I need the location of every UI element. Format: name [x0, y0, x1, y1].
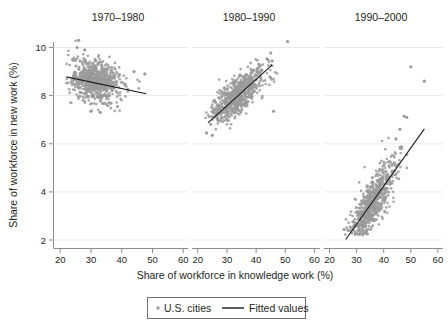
scatter-point [232, 90, 235, 93]
scatter-point [102, 94, 105, 97]
scatter-point [226, 97, 229, 100]
scatter-point [394, 152, 397, 155]
scatter-point [94, 59, 97, 62]
scatter-point [385, 206, 388, 209]
scatter-point [266, 72, 269, 75]
scatter-point [390, 155, 393, 158]
scatter-point [102, 60, 105, 63]
scatter-point [68, 92, 71, 95]
scatter-point [216, 122, 219, 125]
scatter-point [269, 52, 272, 55]
scatter-point [375, 170, 378, 173]
scatter-point [229, 113, 232, 116]
scatter-point [368, 189, 371, 192]
scatter-point [345, 218, 348, 221]
scatter-point [97, 109, 100, 112]
scatter-point-outlier [266, 58, 269, 61]
scatter-point [115, 90, 118, 93]
x-tick-label-40-p3: 40 [378, 254, 389, 265]
scatter-point [399, 152, 402, 155]
scatter-point [115, 71, 118, 74]
scatter-point [240, 74, 243, 77]
scatter-point [223, 116, 226, 119]
scatter-point [242, 83, 245, 86]
scatter-point [99, 100, 102, 103]
scatter-point [369, 200, 372, 203]
scatter-chart-figure: 1970–1980 1980–1990 1990–2000 10 8 6 4 2… [0, 0, 448, 329]
scatter-point [82, 53, 85, 56]
scatter-point [250, 92, 253, 95]
scatter-point [261, 84, 264, 87]
scatter-point [383, 164, 386, 167]
scatter-point [138, 80, 141, 83]
scatter-point [260, 68, 263, 71]
scatter-point [85, 75, 88, 78]
y-tick-label-8: 8 [41, 90, 46, 101]
scatter-point-outlier [77, 39, 80, 42]
scatter-point [120, 81, 123, 84]
scatter-point [224, 101, 227, 104]
scatter-point [93, 72, 96, 75]
scatter-point [362, 220, 365, 223]
scatter-point [95, 103, 98, 106]
scatter-point [254, 58, 257, 61]
scatter-point [107, 105, 110, 108]
scatter-point-outlier [398, 128, 401, 131]
scatter-point [268, 84, 271, 87]
scatter-point [368, 214, 371, 217]
scatter-point [233, 101, 236, 104]
scatter-point [104, 86, 107, 89]
scatter-point [136, 79, 139, 82]
scatter-point [233, 74, 236, 77]
scatter-point [276, 72, 279, 75]
scatter-point [353, 218, 356, 221]
scatter-point [81, 92, 84, 95]
scatter-point [244, 75, 247, 78]
scatter-point [406, 167, 409, 170]
scatter-point [118, 66, 121, 69]
scatter-point [247, 90, 250, 93]
scatter-point-outlier [89, 110, 92, 113]
scatter-point [108, 75, 111, 78]
scatter-point [216, 91, 219, 94]
scatter-point [237, 84, 240, 87]
scatter-point [398, 159, 401, 162]
scatter-point [84, 84, 87, 87]
scatter-point-outlier [205, 131, 208, 134]
scatter-point [387, 194, 390, 197]
scatter-point [259, 80, 262, 83]
scatter-point [218, 98, 221, 101]
scatter-point [218, 78, 221, 81]
scatter-point [227, 94, 230, 97]
scatter-point [87, 62, 90, 65]
scatter-point-outlier [405, 116, 408, 119]
scatter-point [216, 119, 219, 122]
scatter-point [68, 88, 71, 91]
scatter-point [99, 72, 102, 75]
scatter-point [238, 87, 241, 90]
scatter-point [240, 111, 243, 114]
y-tick-label-10: 10 [35, 42, 46, 53]
scatter-point [270, 78, 273, 81]
scatter-point [116, 95, 119, 98]
panel-title-2: 1980–1990 [223, 11, 276, 23]
scatter-point [385, 170, 388, 173]
scatter-point [358, 181, 361, 184]
scatter-point [392, 180, 395, 183]
scatter-point [84, 61, 87, 64]
scatter-point [363, 208, 366, 211]
scatter-point [225, 80, 228, 83]
scatter-point-outlier [409, 65, 412, 68]
scatter-point [226, 84, 229, 87]
x-tick-label-20-p3: 20 [324, 254, 335, 265]
scatter-point [368, 191, 371, 194]
scatter-point [97, 89, 100, 92]
scatter-point [245, 112, 248, 115]
scatter-point [239, 68, 242, 71]
scatter-point [76, 76, 79, 79]
scatter-point-outlier [272, 110, 275, 113]
scatter-point [392, 196, 395, 199]
scatter-point [374, 212, 377, 215]
x-tick-label-40-p1: 40 [116, 254, 127, 265]
scatter-point [105, 98, 108, 101]
